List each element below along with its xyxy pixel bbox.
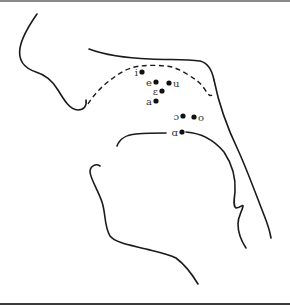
vowel-label: ɔ (173, 111, 179, 122)
vowel-point-7: ɑ (172, 127, 185, 138)
vowel-dot (153, 98, 158, 103)
vowel-point-2: u (166, 78, 180, 89)
face-profile (20, 14, 87, 110)
vowel-point-4: a (146, 96, 159, 107)
vowel-point-6: o (191, 112, 204, 123)
vocal-tract-diagram: ieuɛaɔoɑ (0, 0, 290, 305)
diagram-frame: ieuɛaɔoɑ (0, 0, 290, 305)
vowel-label: a (146, 96, 152, 107)
vowel-dot (159, 88, 164, 93)
vowel-point-3: ɛ (153, 86, 165, 97)
lower-jaw (90, 165, 198, 284)
vowel-dot (180, 113, 185, 118)
vowel-label: ɛ (153, 86, 158, 97)
tongue-surface (117, 133, 166, 146)
vowel-points: ieuɛaɔoɑ (135, 67, 204, 138)
palate (89, 49, 214, 80)
vowel-label: e (146, 77, 152, 88)
vowel-dot (179, 129, 184, 134)
vowel-label: ɑ (172, 127, 179, 138)
vowel-dot (166, 80, 171, 85)
vowel-label: o (198, 112, 204, 123)
vowel-point-0: i (135, 67, 145, 78)
vowel-point-5: ɔ (173, 111, 185, 122)
pharynx-wall (214, 80, 271, 238)
vowel-label: u (173, 78, 180, 89)
vowel-dot (139, 69, 144, 74)
vowel-dot (153, 79, 158, 84)
vowel-dot (191, 114, 196, 119)
vowel-label: i (135, 67, 138, 78)
